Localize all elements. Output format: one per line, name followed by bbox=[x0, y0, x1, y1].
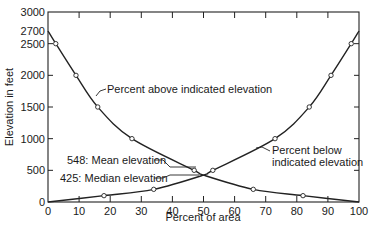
data-point-marker bbox=[54, 41, 58, 45]
y-axis-title: Elevation in feet bbox=[3, 68, 15, 146]
x-tick-label: 20 bbox=[104, 205, 116, 217]
data-point-marker bbox=[130, 136, 134, 140]
data-point-marker bbox=[211, 168, 215, 172]
x-tick-label: 80 bbox=[291, 205, 303, 217]
y-tick-label: 2500 bbox=[21, 38, 45, 50]
y-tick-label: 3000 bbox=[21, 6, 45, 18]
annotations: Percent above indicated elevation Percen… bbox=[3, 68, 363, 223]
data-point-marker bbox=[102, 193, 106, 197]
data-point-marker bbox=[273, 136, 277, 140]
median-elevation-label: 425: Median elevation bbox=[60, 172, 168, 184]
x-tick-label: 10 bbox=[73, 205, 85, 217]
above-curve-leader bbox=[96, 89, 106, 96]
data-point-marker bbox=[301, 193, 305, 197]
data-point-marker bbox=[251, 187, 255, 191]
x-axis-title: Percent of area bbox=[165, 211, 241, 223]
data-point-marker bbox=[307, 105, 311, 109]
x-tick-label: 30 bbox=[135, 205, 147, 217]
y-tick-label: 2000 bbox=[21, 69, 45, 81]
mean-elevation-label: 548: Mean elevation bbox=[67, 154, 166, 166]
data-point-marker bbox=[329, 73, 333, 77]
elevation-area-chart: 0102030405060708090100050010001500200025… bbox=[0, 0, 371, 228]
y-tick-label: 500 bbox=[27, 164, 45, 176]
data-point-marker bbox=[192, 168, 196, 172]
below-curve-label-line1: Percent below bbox=[272, 144, 342, 156]
y-tick-label: 1000 bbox=[21, 133, 45, 145]
axes: 0102030405060708090100050010001500200025… bbox=[21, 6, 369, 217]
x-tick-label: 90 bbox=[322, 205, 334, 217]
x-tick-label: 70 bbox=[260, 205, 272, 217]
data-point-marker bbox=[349, 41, 353, 45]
data-point-marker bbox=[96, 105, 100, 109]
data-point-marker bbox=[74, 73, 78, 77]
data-point-marker bbox=[152, 187, 156, 191]
y-tick-label: 2700 bbox=[21, 25, 45, 37]
below-curve-label-line2: indicated elevation bbox=[272, 156, 363, 168]
x-tick-label: 100 bbox=[350, 205, 368, 217]
y-tick-label: 0 bbox=[39, 196, 45, 208]
y-tick-label: 1500 bbox=[21, 101, 45, 113]
x-tick-label: 0 bbox=[45, 205, 51, 217]
above-curve-label: Percent above indicated elevation bbox=[107, 83, 272, 95]
